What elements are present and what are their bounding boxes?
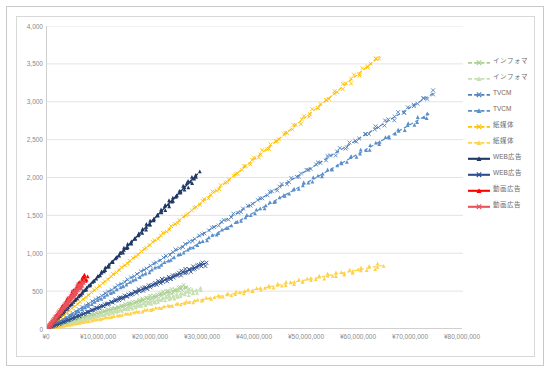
data-point-marker-triangle [196,298,200,302]
data-point-marker-x [251,202,255,206]
legend-item-label: インフォマ [493,57,533,65]
data-point-marker-x [374,124,378,128]
data-point-marker-x [144,246,148,250]
x-axis: ¥0¥10,000,000¥20,000,000¥30,000,000¥40,0… [16,330,516,344]
data-point-marker-triangle [144,222,148,226]
data-point-marker-x [116,283,120,287]
series-4 [47,56,381,329]
chart-page: 05001,0001,5002,0002,5003,0003,5004,000 … [0,0,552,374]
legend-item-label: 動画広告 [493,185,533,193]
legend-key-swatch [468,138,490,148]
data-point-marker-triangle [339,270,343,274]
legend-item-8[interactable]: 動画広告 [468,185,534,200]
legend-key-swatch [468,202,490,212]
x-axis-tick-label: ¥60,000,000 [340,333,376,340]
data-point-marker-triangle [367,265,371,269]
legend-item-label: TVCM [493,105,533,113]
x-axis-tick-label: ¥0 [42,333,49,340]
x-axis-tick-label: ¥20,000,000 [132,333,168,340]
data-point-marker-triangle [83,273,87,277]
data-point-marker-x [183,267,187,271]
data-point-marker-x [341,87,345,91]
legend-item-7[interactable]: WEB広告 [468,169,534,184]
data-point-marker-triangle [264,203,268,207]
legend-item-4[interactable]: 紙媒体 [468,121,534,136]
plot-svg [47,26,463,329]
data-point-marker-x [149,264,153,268]
data-point-marker-triangle [311,180,315,184]
x-axis-tick-label: ¥70,000,000 [392,333,428,340]
data-point-marker-triangle [190,175,194,179]
data-point-marker-x [211,190,215,194]
data-point-marker-triangle [258,207,262,211]
y-axis-tick-label: 1,500 [3,212,43,219]
data-point-marker-triangle [326,272,330,276]
x-axis-tick-label: ¥10,000,000 [80,333,116,340]
data-point-marker-triangle [345,160,349,164]
data-point-marker-triangle [297,278,301,282]
y-axis-tick-label: 500 [3,288,43,295]
data-point-marker-triangle [254,208,258,212]
legend-key-swatch [468,170,490,180]
legend-item-3[interactable]: TVCM [468,105,534,120]
data-point-marker-x [217,224,221,228]
legend-item-5[interactable]: 紙媒体 [468,137,534,152]
y-axis-tick-label: 2,500 [3,136,43,143]
data-point-marker-x [393,115,397,119]
y-axis-tick-label: 1,000 [3,250,43,257]
x-axis-tick-label: ¥40,000,000 [236,333,272,340]
legend-item-label: TVCM [493,89,533,97]
data-point-marker-triangle [199,286,203,290]
data-point-marker-triangle [368,143,372,147]
data-point-marker-triangle [284,280,288,284]
series-3 [47,111,429,329]
data-point-marker-triangle [348,268,352,272]
data-point-marker-x [203,264,207,268]
data-point-marker-x [373,127,377,131]
series-5 [47,262,386,329]
x-axis-tick-label: ¥80,000,000 [444,333,480,340]
data-point-marker-triangle [403,128,407,132]
legend-item-label: 紙媒体 [493,137,533,145]
data-point-marker-x [383,119,387,123]
data-point-marker-x [299,122,303,126]
data-point-marker-triangle [150,268,154,272]
data-point-marker-x [360,66,364,70]
data-point-marker-x [229,215,233,219]
legend-item-9[interactable]: 動画広告 [468,201,534,216]
data-point-marker-x [125,277,129,281]
data-point-marker-triangle [349,154,353,158]
data-point-marker-triangle [425,111,429,115]
data-point-marker-triangle [245,213,249,217]
y-axis-tick-label: 2,000 [3,174,43,181]
data-point-marker-triangle [201,239,205,243]
data-point-marker-triangle [406,121,410,125]
legend-item-6[interactable]: WEB広告 [468,153,534,168]
legend-item-2[interactable]: TVCM [468,89,534,104]
data-point-marker-x [209,193,213,197]
data-point-marker-triangle [276,282,280,286]
data-point-marker-x [431,88,435,92]
legend-key-swatch [468,74,490,84]
data-point-marker-triangle [334,270,338,274]
y-axis-tick-label: 3,500 [3,60,43,67]
data-point-marker-triangle [255,286,259,290]
data-point-marker-triangle [268,200,272,204]
legend-item-label: WEB広告 [493,153,533,161]
data-point-marker-triangle [246,288,250,292]
data-point-marker-triangle [163,260,167,264]
data-point-marker-x [349,82,353,86]
legend-item-label: インフォマ [493,73,533,81]
data-point-marker-triangle [302,180,306,184]
y-axis-tick-label: 3,000 [3,98,43,105]
data-point-marker-triangle [184,300,188,304]
data-point-marker-triangle [204,296,208,300]
data-point-marker-x [169,224,173,228]
data-point-marker-triangle [305,277,309,281]
legend-item-1[interactable]: インフォマ [468,73,534,88]
data-point-marker-x [310,107,314,111]
y-axis: 05001,0001,5002,0002,5003,0003,5004,000 [0,26,43,329]
data-point-marker-triangle [172,255,176,259]
legend-item-0[interactable]: インフォマ [468,57,534,72]
y-axis-tick-label: 4,000 [3,23,43,30]
